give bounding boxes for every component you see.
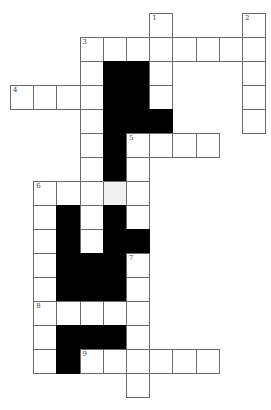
answer-cell[interactable] (149, 85, 173, 110)
black-square (103, 133, 127, 158)
answer-cell[interactable] (56, 85, 80, 110)
answer-cell[interactable] (80, 229, 104, 254)
answer-cell[interactable] (149, 37, 173, 62)
black-square (126, 61, 150, 86)
black-square (103, 109, 127, 134)
answer-cell[interactable] (33, 205, 57, 230)
black-square (103, 325, 127, 350)
answer-cell[interactable]: 7 (126, 253, 150, 278)
black-square (149, 109, 173, 134)
answer-cell[interactable] (33, 253, 57, 278)
answer-cell[interactable] (242, 109, 266, 134)
black-square (103, 85, 127, 110)
answer-cell[interactable] (242, 37, 266, 62)
answer-cell[interactable] (33, 325, 57, 350)
answer-cell[interactable]: 3 (80, 37, 104, 62)
answer-cell[interactable] (126, 373, 150, 398)
answer-cell[interactable] (103, 349, 127, 374)
answer-cell[interactable] (126, 301, 150, 326)
black-square (56, 253, 80, 278)
black-square (126, 109, 150, 134)
answer-cell[interactable] (33, 349, 57, 374)
answer-cell[interactable] (126, 37, 150, 62)
answer-cell[interactable] (172, 349, 196, 374)
answer-cell[interactable] (219, 37, 243, 62)
black-square (126, 85, 150, 110)
clue-number: 1 (152, 15, 156, 22)
answer-cell[interactable] (126, 277, 150, 302)
answer-cell[interactable] (80, 205, 104, 230)
black-square (103, 61, 127, 86)
clue-number: 7 (129, 255, 133, 262)
answer-cell[interactable]: 1 (149, 13, 173, 38)
answer-cell[interactable] (103, 37, 127, 62)
black-square (103, 277, 127, 302)
answer-cell[interactable]: 9 (80, 349, 104, 374)
clue-number: 2 (245, 15, 249, 22)
answer-cell[interactable]: 4 (10, 85, 34, 110)
answer-cell[interactable] (126, 325, 150, 350)
answer-cell[interactable] (196, 349, 220, 374)
answer-cell[interactable]: 5 (126, 133, 150, 158)
black-square (56, 229, 80, 254)
answer-cell[interactable] (56, 181, 80, 206)
answer-cell[interactable] (33, 229, 57, 254)
crossword-grid: 123456789 (0, 0, 271, 410)
black-square (80, 325, 104, 350)
black-square (56, 349, 80, 374)
answer-cell[interactable] (242, 61, 266, 86)
answer-cell[interactable] (80, 157, 104, 182)
clue-number: 5 (129, 135, 133, 142)
black-square (56, 277, 80, 302)
answer-cell[interactable] (149, 61, 173, 86)
answer-cell[interactable] (33, 85, 57, 110)
answer-cell[interactable] (149, 349, 173, 374)
answer-cell[interactable]: 6 (33, 181, 57, 206)
answer-cell[interactable] (172, 133, 196, 158)
answer-cell[interactable] (196, 37, 220, 62)
black-square (80, 277, 104, 302)
answer-cell[interactable] (80, 181, 104, 206)
clue-number: 3 (83, 39, 87, 46)
black-square (103, 205, 127, 230)
answer-cell[interactable] (242, 85, 266, 110)
black-square (126, 229, 150, 254)
answer-cell[interactable]: 2 (242, 13, 266, 38)
answer-cell[interactable] (80, 109, 104, 134)
answer-cell[interactable] (103, 181, 127, 206)
answer-cell[interactable] (33, 277, 57, 302)
answer-cell[interactable] (80, 301, 104, 326)
answer-cell[interactable] (80, 61, 104, 86)
clue-number: 9 (83, 351, 87, 358)
black-square (56, 325, 80, 350)
answer-cell[interactable] (126, 205, 150, 230)
answer-cell[interactable] (172, 37, 196, 62)
clue-number: 4 (13, 87, 17, 94)
black-square (80, 253, 104, 278)
answer-cell[interactable] (103, 301, 127, 326)
clue-number: 6 (36, 183, 40, 190)
answer-cell[interactable] (80, 85, 104, 110)
answer-cell[interactable] (80, 133, 104, 158)
black-square (103, 229, 127, 254)
answer-cell[interactable] (126, 181, 150, 206)
black-square (103, 253, 127, 278)
black-square (103, 157, 127, 182)
clue-number: 8 (36, 303, 40, 310)
answer-cell[interactable] (126, 349, 150, 374)
answer-cell[interactable] (56, 301, 80, 326)
answer-cell[interactable]: 8 (33, 301, 57, 326)
answer-cell[interactable] (196, 133, 220, 158)
answer-cell[interactable] (126, 157, 150, 182)
answer-cell[interactable] (149, 133, 173, 158)
black-square (56, 205, 80, 230)
